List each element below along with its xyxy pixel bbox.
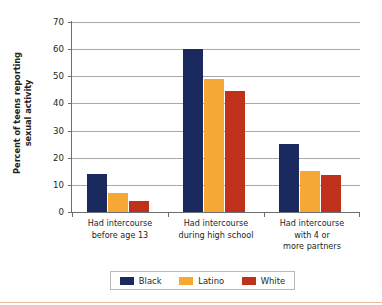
y-axis-title-line-1: Percent of teens reporting [12, 52, 22, 174]
legend-swatch-latino-icon [179, 277, 193, 285]
legend-label-white: White [261, 276, 285, 286]
y-axis-title-line-2: sexual activity [23, 52, 34, 174]
chart-legend: BlackLatinoWhite [110, 271, 295, 290]
bar-white-group-3 [321, 175, 341, 212]
bar-white-group-1 [129, 201, 149, 212]
y-tick-label-20: 20 [53, 153, 64, 163]
y-tick-label-50: 50 [53, 71, 64, 81]
y-tick-label-40: 40 [53, 98, 64, 108]
y-axis-title: Percent of teens reporting sexual activi… [12, 52, 34, 174]
gridline-50 [72, 76, 360, 77]
footer-rule [0, 302, 382, 303]
legend-label-latino: Latino [198, 276, 224, 286]
x-axis-label-group-3: Had intercoursewith 4 ormore partners [256, 218, 368, 253]
bar-black-group-1 [87, 174, 107, 212]
y-axis-line [71, 21, 72, 213]
gridline-60 [72, 49, 360, 50]
legend-item-latino[interactable]: Latino [179, 276, 224, 286]
x-axis-label-group-3-line-3: more partners [256, 241, 368, 253]
bar-latino-group-3 [300, 171, 320, 212]
legend-swatch-black-icon [120, 277, 134, 285]
legend-swatch-white-icon [242, 277, 256, 285]
x-axis-label-group-3-line-1: Had intercourse [256, 218, 368, 230]
bar-latino-group-2 [204, 79, 224, 212]
legend-item-black[interactable]: Black [120, 276, 162, 286]
bar-black-group-2 [183, 49, 203, 212]
legend-label-black: Black [139, 276, 162, 286]
y-tick-label-0: 0 [59, 207, 64, 217]
y-tick-label-60: 60 [53, 44, 64, 54]
x-axis-line [71, 212, 360, 213]
y-tick-label-30: 30 [53, 126, 64, 136]
bar-white-group-2 [225, 91, 245, 212]
bar-latino-group-1 [108, 193, 128, 212]
y-tick-label-70: 70 [53, 17, 64, 27]
legend-item-white[interactable]: White [242, 276, 285, 286]
y-tick-label-10: 10 [53, 180, 64, 190]
bar-chart-figure: Percent of teens reporting sexual activi… [0, 0, 382, 305]
y-axis-title-container: Percent of teens reporting sexual activi… [0, 0, 46, 225]
plot-area: 010203040506070 [72, 22, 360, 212]
bar-black-group-3 [279, 144, 299, 212]
x-axis-label-group-3-line-2: with 4 or [256, 230, 368, 242]
gridline-70 [72, 22, 360, 23]
